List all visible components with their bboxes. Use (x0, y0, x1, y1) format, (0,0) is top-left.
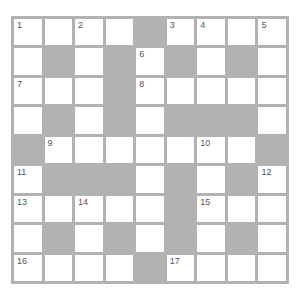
block-cell (45, 225, 73, 251)
block-cell (106, 78, 134, 104)
crossword-cell[interactable]: 10 (197, 137, 225, 163)
crossword-cell[interactable]: 6 (136, 48, 164, 74)
block-cell (106, 225, 134, 251)
crossword-cell[interactable] (258, 78, 286, 104)
crossword-cell[interactable] (258, 196, 286, 222)
crossword-cell[interactable] (14, 107, 42, 133)
clue-number: 2 (78, 21, 83, 30)
crossword-cell[interactable] (136, 107, 164, 133)
block-cell (136, 255, 164, 281)
crossword-cell[interactable] (75, 255, 103, 281)
crossword-cell[interactable] (75, 225, 103, 251)
block-cell (45, 107, 73, 133)
crossword-cell[interactable] (14, 48, 42, 74)
crossword-cell[interactable] (136, 166, 164, 192)
crossword-cell[interactable] (106, 255, 134, 281)
crossword-cell[interactable]: 11 (14, 166, 42, 192)
crossword-cell[interactable] (45, 255, 73, 281)
block-cell (45, 166, 73, 192)
crossword-cell[interactable] (75, 48, 103, 74)
crossword-cell[interactable] (45, 78, 73, 104)
crossword-cell[interactable] (258, 48, 286, 74)
crossword-cell[interactable]: 4 (197, 19, 225, 45)
block-cell (228, 166, 256, 192)
block-cell (167, 225, 195, 251)
clue-number: 5 (261, 21, 266, 30)
block-cell (228, 48, 256, 74)
crossword-cell[interactable] (197, 166, 225, 192)
crossword-cell[interactable] (106, 196, 134, 222)
block-cell (45, 48, 73, 74)
crossword-cell[interactable] (106, 19, 134, 45)
clue-number: 7 (17, 80, 22, 89)
crossword-cell[interactable] (197, 78, 225, 104)
crossword-cell[interactable] (14, 225, 42, 251)
clue-number: 12 (261, 168, 271, 177)
clue-number: 16 (17, 257, 27, 266)
clue-number: 15 (200, 198, 210, 207)
block-cell (136, 19, 164, 45)
clue-number: 1 (17, 21, 22, 30)
clue-number: 14 (78, 198, 88, 207)
crossword-cell[interactable]: 7 (14, 78, 42, 104)
block-cell (228, 107, 256, 133)
crossword-cell[interactable] (136, 225, 164, 251)
crossword-cell[interactable] (197, 48, 225, 74)
block-cell (197, 107, 225, 133)
block-cell (167, 48, 195, 74)
block-cell (167, 166, 195, 192)
block-cell (106, 107, 134, 133)
clue-number: 17 (170, 257, 180, 266)
crossword-cell[interactable] (258, 255, 286, 281)
clue-number: 11 (17, 168, 26, 177)
clue-number: 3 (170, 21, 175, 30)
crossword-cell[interactable]: 1 (14, 19, 42, 45)
crossword-cell[interactable] (197, 225, 225, 251)
crossword-cell[interactable] (136, 196, 164, 222)
crossword-cell[interactable] (228, 196, 256, 222)
block-cell (258, 137, 286, 163)
crossword-cell[interactable]: 16 (14, 255, 42, 281)
crossword-cell[interactable] (197, 255, 225, 281)
crossword-cell[interactable] (228, 137, 256, 163)
crossword-cell[interactable] (45, 19, 73, 45)
block-cell (167, 107, 195, 133)
crossword-cell[interactable] (228, 19, 256, 45)
crossword-cell[interactable] (136, 137, 164, 163)
crossword-cell[interactable] (167, 137, 195, 163)
crossword-cell[interactable] (75, 107, 103, 133)
crossword-cell[interactable] (75, 78, 103, 104)
crossword-cell[interactable]: 2 (75, 19, 103, 45)
crossword-cell[interactable]: 3 (167, 19, 195, 45)
clue-number: 9 (48, 139, 53, 148)
clue-number: 6 (139, 50, 144, 59)
clue-number: 13 (17, 198, 27, 207)
crossword-cell[interactable]: 15 (197, 196, 225, 222)
block-cell (14, 137, 42, 163)
crossword-cell[interactable]: 14 (75, 196, 103, 222)
crossword-cell[interactable]: 8 (136, 78, 164, 104)
crossword-cell[interactable] (75, 137, 103, 163)
block-cell (75, 166, 103, 192)
crossword-grid: 1234567891011121314151617 (11, 16, 289, 284)
block-cell (106, 166, 134, 192)
crossword-cell[interactable] (258, 107, 286, 133)
crossword-cell[interactable]: 9 (45, 137, 73, 163)
block-cell (106, 48, 134, 74)
block-cell (167, 196, 195, 222)
crossword-cell[interactable]: 5 (258, 19, 286, 45)
clue-number: 8 (139, 80, 144, 89)
crossword-cell[interactable]: 17 (167, 255, 195, 281)
crossword-cell[interactable] (228, 255, 256, 281)
crossword-cell[interactable] (167, 78, 195, 104)
crossword-cell[interactable]: 12 (258, 166, 286, 192)
block-cell (228, 225, 256, 251)
crossword-cell[interactable] (228, 78, 256, 104)
clue-number: 4 (200, 21, 205, 30)
crossword-cell[interactable] (45, 196, 73, 222)
crossword-cell[interactable]: 13 (14, 196, 42, 222)
crossword-cell[interactable] (106, 137, 134, 163)
crossword-cell[interactable] (258, 225, 286, 251)
clue-number: 10 (200, 139, 210, 148)
